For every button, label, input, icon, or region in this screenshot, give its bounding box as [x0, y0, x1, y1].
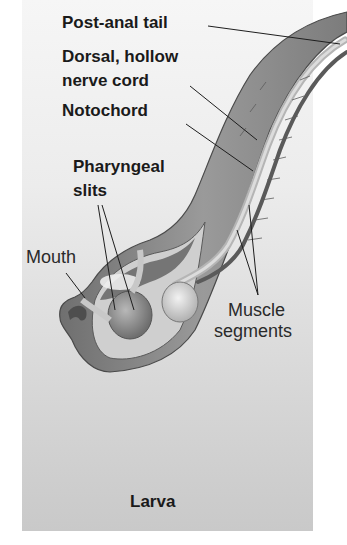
label-pharyngeal-slits-line1: Pharyngeal [73, 156, 165, 178]
organ [162, 282, 198, 322]
larva-illustration [0, 0, 347, 545]
label-dorsal-nerve-cord-line1: Dorsal, hollow [62, 46, 178, 68]
figure-caption: Larva [130, 491, 175, 513]
label-post-anal-tail: Post-anal tail [62, 12, 168, 34]
label-notochord: Notochord [62, 100, 148, 122]
label-pharyngeal-slits-line2: slits [73, 180, 107, 202]
label-muscle-segments-line1: Muscle [228, 299, 285, 321]
label-dorsal-nerve-cord-line2: nerve cord [62, 70, 149, 92]
label-mouth: Mouth [26, 246, 76, 268]
label-muscle-segments-line2: segments [214, 320, 292, 342]
